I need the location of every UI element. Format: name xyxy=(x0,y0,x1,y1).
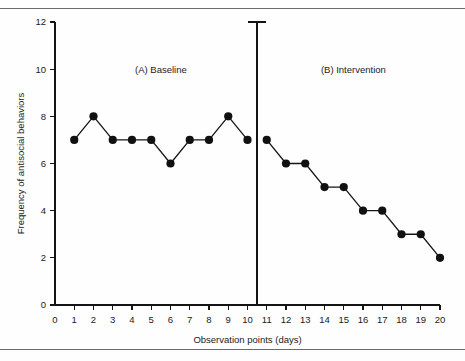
x-tick-label: 0 xyxy=(52,314,57,325)
y-axis-tick-labels: 024681012 xyxy=(35,16,46,310)
figure-root: 024681012 Frequency of antisocial behavi… xyxy=(0,0,465,361)
x-tick-label: 12 xyxy=(281,314,292,325)
series-line xyxy=(267,140,440,258)
phase-divider-group xyxy=(248,22,266,305)
phase-label-intervention: (B) Intervention xyxy=(321,64,386,75)
series-baseline xyxy=(70,112,251,167)
x-tick-label: 18 xyxy=(396,314,407,325)
y-tick-label: 12 xyxy=(35,16,46,27)
x-axis-title: Observation points (days) xyxy=(193,334,301,345)
data-point xyxy=(70,136,78,144)
data-point xyxy=(282,159,290,167)
x-tick-label: 5 xyxy=(149,314,154,325)
y-tick-label: 10 xyxy=(35,64,46,75)
x-tick-label: 9 xyxy=(226,314,231,325)
y-tick-label: 2 xyxy=(41,252,46,263)
data-point xyxy=(186,136,194,144)
data-point xyxy=(263,136,271,144)
x-tick-label: 15 xyxy=(338,314,349,325)
x-axis-group: 01234567891011121314151617181920 Observa… xyxy=(52,305,445,345)
data-point xyxy=(89,112,97,120)
x-tick-label: 1 xyxy=(72,314,77,325)
x-tick-label: 20 xyxy=(435,314,446,325)
y-tick-label: 0 xyxy=(41,299,46,310)
data-point xyxy=(147,136,155,144)
data-point xyxy=(359,207,367,215)
y-tick-label: 6 xyxy=(41,158,46,169)
data-point xyxy=(417,230,425,238)
x-tick-label: 16 xyxy=(358,314,369,325)
data-point xyxy=(397,230,405,238)
x-tick-label: 6 xyxy=(168,314,173,325)
single-case-design-line-chart: 024681012 Frequency of antisocial behavi… xyxy=(0,0,465,361)
data-point xyxy=(205,136,213,144)
phase-annotations: (A) Baseline(B) Intervention xyxy=(135,64,386,75)
y-tick-label: 8 xyxy=(41,111,46,122)
data-point xyxy=(224,112,232,120)
y-axis-title: Frequency of antisocial behaviors xyxy=(15,92,26,234)
data-point xyxy=(436,254,444,262)
data-point xyxy=(109,136,117,144)
x-tick-label: 19 xyxy=(415,314,426,325)
x-tick-label: 14 xyxy=(319,314,330,325)
data-point xyxy=(128,136,136,144)
data-point xyxy=(320,183,328,191)
x-axis-tick-labels: 01234567891011121314151617181920 xyxy=(52,314,445,325)
x-axis-ticks xyxy=(74,305,440,310)
x-tick-label: 10 xyxy=(242,314,253,325)
x-tick-label: 4 xyxy=(129,314,134,325)
series-intervention xyxy=(263,136,444,262)
data-point xyxy=(340,183,348,191)
data-point xyxy=(166,159,174,167)
y-axis-ticks xyxy=(50,22,55,305)
x-tick-label: 11 xyxy=(262,314,272,325)
x-tick-label: 17 xyxy=(377,314,388,325)
x-tick-label: 7 xyxy=(187,314,192,325)
data-point xyxy=(243,136,251,144)
data-point xyxy=(301,159,309,167)
data-point xyxy=(378,207,386,215)
y-tick-label: 4 xyxy=(41,205,46,216)
phase-label-baseline: (A) Baseline xyxy=(135,64,187,75)
y-axis-group: 024681012 Frequency of antisocial behavi… xyxy=(15,16,55,310)
series-line xyxy=(74,116,247,163)
x-tick-label: 2 xyxy=(91,314,96,325)
x-tick-label: 13 xyxy=(300,314,311,325)
x-tick-label: 3 xyxy=(110,314,115,325)
x-tick-label: 8 xyxy=(206,314,211,325)
